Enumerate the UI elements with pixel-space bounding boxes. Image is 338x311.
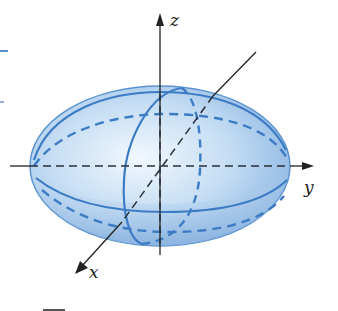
z-axis-label: z bbox=[169, 10, 180, 30]
ellipsoid-figure: z y x bbox=[0, 0, 338, 311]
left-edge-mark-bottom bbox=[0, 101, 4, 103]
y-arrowhead-icon bbox=[302, 162, 314, 170]
z-arrowhead-icon bbox=[156, 13, 164, 26]
x-arrowhead-icon bbox=[75, 261, 88, 274]
y-axis-label: y bbox=[303, 177, 314, 197]
x-axis-label: x bbox=[89, 262, 99, 282]
left-edge-mark-top bbox=[0, 50, 8, 52]
